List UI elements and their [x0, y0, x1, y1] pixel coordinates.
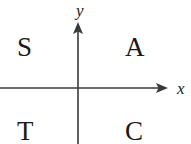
quadrant-label-lower-right: C: [125, 118, 143, 144]
cartesian-quadrant-diagram: y x S A T C: [0, 0, 191, 144]
quadrant-label-upper-right: A: [125, 34, 145, 61]
quadrant-label-upper-left: S: [17, 34, 32, 61]
x-axis-label: x: [177, 80, 185, 97]
quadrant-label-lower-left: T: [17, 118, 34, 144]
y-axis-label: y: [76, 2, 84, 19]
